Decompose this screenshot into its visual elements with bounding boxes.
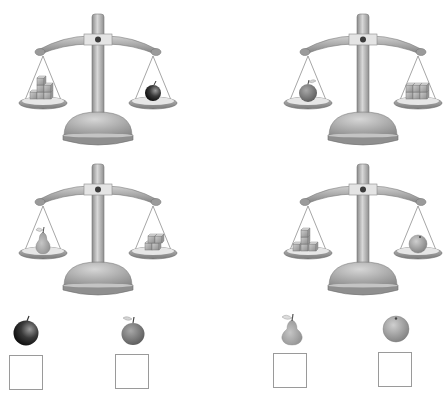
orange-icon — [381, 314, 411, 344]
answer-box-red-apple[interactable] — [115, 354, 149, 389]
red-apple-icon — [299, 80, 317, 102]
cube-stack-icon — [406, 83, 429, 99]
answer-box-pear[interactable] — [273, 353, 307, 388]
balance-scale-2 — [279, 0, 447, 150]
red-apple-icon — [120, 315, 148, 347]
pear-icon — [36, 227, 50, 254]
balance-scale-4 — [279, 150, 447, 300]
cube-stack-icon — [293, 228, 318, 251]
black-apple-icon — [145, 81, 161, 101]
answer-box-orange[interactable] — [378, 352, 412, 387]
answer-box-black-apple[interactable] — [9, 355, 43, 390]
balance-scale-3 — [14, 150, 214, 300]
orange-icon — [409, 235, 427, 253]
balance-scale-1 — [14, 0, 214, 150]
black-apple-icon — [13, 315, 41, 347]
cube-stack-icon — [145, 234, 164, 250]
pear-icon — [278, 312, 306, 347]
